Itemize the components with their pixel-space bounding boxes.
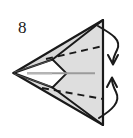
- origami-step-figure: 8: [0, 0, 133, 138]
- origami-diagram-svg: 8: [0, 0, 133, 138]
- paper-body-group: [14, 20, 104, 125]
- step-number-label: 8: [18, 18, 27, 37]
